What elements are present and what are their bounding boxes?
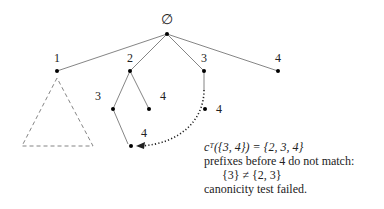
note-line-prefixes: prefixes before 4 do not match: — [204, 154, 354, 168]
note-line-result: canonicity test failed. — [204, 182, 354, 196]
dotted-back-arrow — [140, 90, 204, 146]
note-line-inequality: {3} ≠ {2, 3} — [204, 168, 354, 182]
node-4 — [276, 69, 280, 73]
label-2: 2 — [127, 51, 133, 65]
node-3 — [202, 69, 206, 73]
node-3-4 — [203, 107, 207, 111]
subtree-triangle — [22, 78, 93, 146]
node-2-3-4 — [129, 144, 133, 148]
arrowhead-icon — [136, 142, 145, 149]
node-2 — [128, 69, 132, 73]
label-2-3-4: 4 — [141, 126, 147, 140]
edge-root-3 — [167, 34, 204, 71]
label-3-4: 4 — [216, 102, 222, 116]
edge-root-2 — [130, 34, 167, 71]
node-root — [165, 32, 169, 36]
canonicity-note: cᵀ({3, 4}) = {2, 3, 4} prefixes before 4… — [204, 140, 354, 196]
node-2-4 — [147, 107, 151, 111]
node-2-3 — [111, 107, 115, 111]
edge-root-4 — [167, 34, 278, 71]
edge-23-4 — [113, 109, 128, 144]
node-1 — [55, 69, 59, 73]
label-2-3: 3 — [95, 89, 101, 103]
edge-root-1 — [57, 34, 167, 71]
label-3: 3 — [201, 51, 207, 65]
label-4: 4 — [275, 51, 281, 65]
label-1: 1 — [54, 51, 60, 65]
label-root: ∅ — [161, 12, 173, 27]
label-2-4: 4 — [160, 89, 166, 103]
edge-2-3 — [113, 71, 130, 109]
edge-2-4 — [130, 71, 149, 109]
note-line-closure: cᵀ({3, 4}) = {2, 3, 4} — [204, 140, 354, 154]
